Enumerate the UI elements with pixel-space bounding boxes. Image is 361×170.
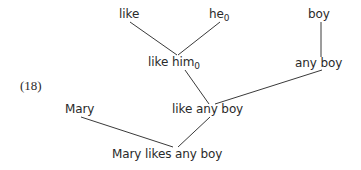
- example-number: (18): [20, 79, 42, 93]
- node-subscript: 0: [194, 61, 200, 71]
- node-like-him: like him0: [148, 55, 200, 69]
- edge-like-him-to-like-any-boy: [185, 70, 209, 104]
- node-subscript: 0: [224, 13, 230, 23]
- node-like: like: [119, 7, 139, 21]
- edge-like-any-boy-to-mary-likes-any-boy: [178, 117, 210, 147]
- node-text: Mary: [65, 102, 94, 116]
- node-text: any boy: [295, 56, 342, 70]
- edge-like-to-like-him: [130, 22, 177, 55]
- edge-any-boy-to-like-any-boy: [215, 70, 322, 104]
- edge-he-to-like-him: [178, 22, 220, 55]
- node-any-boy: any boy: [295, 56, 342, 70]
- node-text: boy: [308, 7, 330, 21]
- node-text: he: [209, 7, 224, 21]
- node-text: Mary likes any boy: [112, 147, 222, 161]
- node-text: like any boy: [172, 102, 243, 116]
- node-text: like him: [148, 55, 194, 69]
- node-mary: Mary: [65, 102, 94, 116]
- tree-edges: [0, 0, 361, 170]
- node-boy: boy: [308, 7, 330, 21]
- edge-mary-to-mary-likes-any-boy: [81, 117, 173, 147]
- node-mary-likes-any-boy: Mary likes any boy: [112, 147, 222, 161]
- node-he: he0: [209, 7, 229, 21]
- node-text: like: [119, 7, 139, 21]
- node-like-any-boy: like any boy: [172, 102, 243, 116]
